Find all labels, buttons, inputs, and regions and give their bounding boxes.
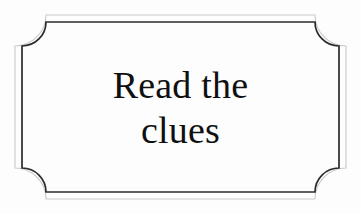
inner-frame-border — [22, 22, 339, 192]
sign-frame — [0, 0, 361, 214]
decorative-sign-card: Read the clues — [0, 0, 361, 214]
outer-frame-border — [15, 15, 346, 199]
